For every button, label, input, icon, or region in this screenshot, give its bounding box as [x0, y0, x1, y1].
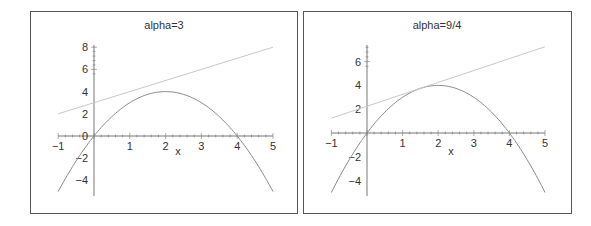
x-tick-label: 1 [127, 140, 133, 152]
plot-panel-alpha-9-4: alpha=9/4−112345−4−2246x [303, 11, 572, 214]
plot-canvas-right: alpha=9/4−112345−4−2246x [304, 12, 573, 215]
x-tick-label: 4 [506, 137, 512, 149]
y-tick-label: 8 [82, 41, 88, 53]
x-tick-label: 2 [163, 140, 169, 152]
chart-title: alpha=9/4 [413, 19, 462, 31]
x-axis-label: x [448, 145, 454, 157]
x-tick-label: −1 [325, 137, 338, 149]
x-tick-label: 3 [198, 140, 204, 152]
x-tick-label: −1 [52, 140, 65, 152]
x-tick-label: 5 [542, 137, 548, 149]
y-tick-label: 6 [82, 63, 88, 75]
y-tick-label: −4 [75, 174, 88, 186]
x-tick-label: 1 [400, 137, 406, 149]
chart-title: alpha=3 [144, 19, 183, 31]
y-tick-label: 6 [355, 56, 361, 68]
y-tick-label: 2 [82, 108, 88, 120]
y-tick-label: −4 [348, 175, 361, 187]
plot-canvas-left: alpha=3−112345−4−202468x [31, 12, 299, 215]
y-tick-label: 4 [82, 86, 88, 98]
y-tick-label: −2 [348, 151, 361, 163]
tangent-line [58, 47, 273, 114]
y-tick-label: 0 [82, 130, 88, 142]
x-tick-label: 4 [234, 140, 240, 152]
x-axis-label: x [175, 145, 181, 157]
y-tick-label: 4 [355, 79, 361, 91]
x-tick-label: 3 [471, 137, 477, 149]
x-tick-label: 2 [435, 137, 441, 149]
x-tick-label: 5 [270, 140, 276, 152]
tangent-line [331, 47, 545, 118]
plot-panel-alpha-3: alpha=3−112345−4−202468x [30, 11, 298, 214]
